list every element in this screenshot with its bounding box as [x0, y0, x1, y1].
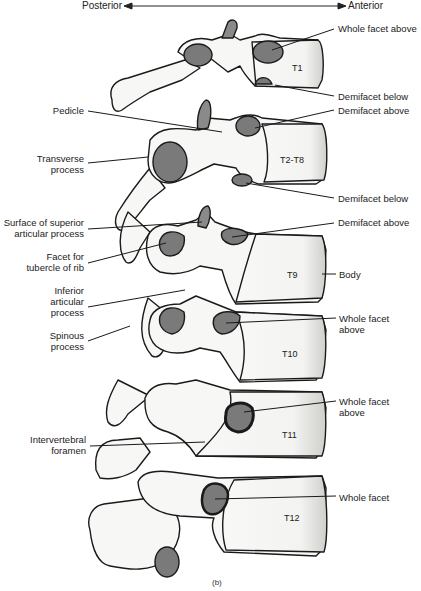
label-intervertebral-foramen: Intervertebral foramen: [30, 434, 86, 456]
label-pedicle: Pedicle: [53, 105, 84, 116]
vertebra-t12: [89, 438, 327, 577]
label-whole-facet-above-t1: Whole facet above: [338, 23, 417, 34]
t9-label: T9: [287, 270, 298, 280]
orientation-arrow: [124, 3, 346, 9]
label-body: Body: [339, 269, 361, 280]
t12-label: T12: [284, 513, 300, 523]
label-demifacet-above-t2-t8: Demifacet above: [338, 105, 409, 116]
t1-label: T1: [292, 63, 303, 73]
label-spinous-process: Spinous process: [50, 330, 84, 352]
vertebra-t9: [120, 206, 326, 304]
label-transverse-process: Transverse process: [37, 153, 84, 175]
vertebra-t2-t8: [116, 100, 327, 230]
label-demifacet-below-t2-t8: Demifacet below: [338, 193, 408, 204]
label-inferior-articular-process: Inferior articular process: [50, 285, 84, 318]
label-whole-facet-above-t10: Whole facet above: [339, 313, 389, 335]
t2-t8-label: T2-T8: [280, 155, 304, 165]
figure-caption: (b): [212, 578, 222, 587]
label-surface-of-superior-articular-process: Surface of superior articular process: [4, 217, 84, 239]
t10-label: T10: [282, 349, 298, 359]
label-whole-facet-above-t11: Whole facet above: [339, 396, 389, 418]
t11-label: T11: [282, 430, 297, 440]
label-demifacet-below-t1: Demifacet below: [338, 91, 408, 102]
label-demifacet-above-t9: Demifacet above: [338, 217, 409, 228]
vertebra-t10: [142, 296, 326, 382]
label-whole-facet-t12: Whole facet: [339, 492, 389, 503]
label-facet-for-tubercle-of-rib: Facet for tubercle of rib: [26, 251, 84, 273]
